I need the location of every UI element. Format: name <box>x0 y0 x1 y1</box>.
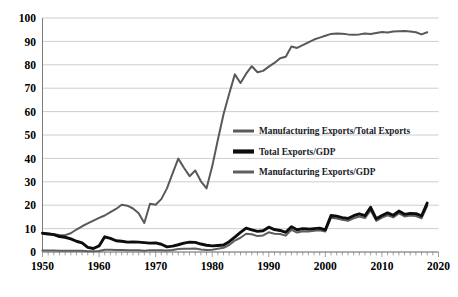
x-tick-label: 1950 <box>31 260 54 272</box>
y-tick-label: 70 <box>25 82 37 94</box>
x-tick-label: 1990 <box>257 260 280 272</box>
y-tick-label: 20 <box>25 199 37 211</box>
y-tick-label: 40 <box>25 153 37 165</box>
y-tick-label: 100 <box>19 12 37 24</box>
y-tick-label: 80 <box>25 59 37 71</box>
y-tick-labels: 0102030405060708090100 <box>19 12 37 258</box>
x-tick-labels: 19501960197019801990200020102020 <box>31 260 450 272</box>
y-tick-label: 50 <box>25 129 37 141</box>
chart-legend: Manufacturing Exports/Total ExportsTotal… <box>233 126 410 177</box>
chart-page: 0102030405060708090100 19501960197019801… <box>0 0 458 297</box>
x-tick-label: 1960 <box>88 260 111 272</box>
line-chart: 0102030405060708090100 19501960197019801… <box>0 0 458 297</box>
y-tick-label: 10 <box>25 223 37 235</box>
legend-label: Total Exports/GDP <box>259 147 336 157</box>
y-tick-label: 60 <box>25 106 37 118</box>
y-tick-label: 30 <box>25 176 37 188</box>
y-tick-label: 0 <box>30 246 36 258</box>
legend-label: Manufacturing Exports/Total Exports <box>259 126 410 136</box>
data-series <box>43 31 428 251</box>
x-tick-label: 2020 <box>427 260 450 272</box>
y-tick-label: 90 <box>25 36 37 48</box>
legend-label: Manufacturing Exports/GDP <box>259 167 376 177</box>
x-tick-label: 1970 <box>144 260 167 272</box>
x-tick-label: 2010 <box>370 260 393 272</box>
x-tick-label: 1980 <box>201 260 224 272</box>
x-tick-label: 2000 <box>314 260 337 272</box>
x-axis <box>43 252 439 257</box>
